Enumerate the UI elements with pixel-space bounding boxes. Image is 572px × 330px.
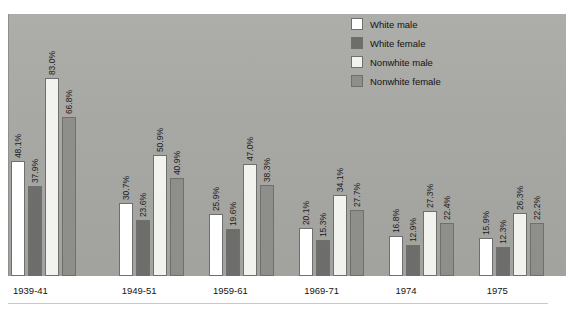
legend-item: White male (351, 18, 441, 30)
bar-value-label: 12.3% (496, 220, 510, 244)
bar: 50.9% (153, 155, 167, 276)
bar-value-label: 47.0% (243, 137, 257, 161)
bar: 27.3% (423, 211, 437, 276)
bar: 27.7% (350, 210, 364, 276)
bar-slot: 23.6% (134, 14, 151, 276)
bar-value-label: 15.3% (316, 213, 330, 237)
x-axis-tick-label: 1975 (475, 276, 566, 306)
bar: 20.1% (299, 228, 313, 276)
chart-legend: White maleWhite femaleNonwhite maleNonwh… (351, 18, 441, 87)
x-axis-tick-label: 1939-41 (9, 276, 110, 306)
legend-item: Nonwhite female (351, 75, 441, 87)
bar-groups: 48.1%37.9%83.0%66.8%30.7%23.6%50.9%40.9%… (9, 14, 566, 276)
x-axis-labels: 1939-411949-511959-611969-7119741975 (9, 276, 566, 306)
bar-slot: 12.3% (494, 14, 511, 276)
bar: 66.8% (62, 117, 76, 276)
bar: 48.1% (11, 161, 25, 276)
bar: 15.9% (479, 238, 493, 276)
bar: 19.6% (226, 229, 240, 276)
bar-slot: 25.9% (207, 14, 224, 276)
legend-swatch-nonwhite-male (351, 56, 363, 68)
bar-slot: 15.9% (477, 14, 494, 276)
legend-swatch-white-male (351, 18, 363, 30)
bar-slot: 19.6% (224, 14, 241, 276)
legend-label: Nonwhite male (370, 57, 433, 68)
bar-value-label: 16.8% (389, 209, 403, 233)
x-axis-tick-label: 1969-71 (292, 276, 383, 306)
bar: 15.3% (316, 240, 330, 276)
bar-slot: 48.1% (9, 14, 26, 276)
bar: 25.9% (209, 214, 223, 276)
bar-group: 48.1%37.9%83.0%66.8% (9, 14, 109, 276)
bar-slot: 22.2% (528, 14, 545, 276)
bar: 12.9% (406, 245, 420, 276)
bar: 34.1% (333, 195, 347, 276)
bar-slot: 50.9% (151, 14, 168, 276)
bar-slot: 20.1% (297, 14, 314, 276)
bar: 47.0% (243, 164, 257, 276)
bar-value-label: 22.4% (440, 196, 454, 220)
bar-slot: 83.0% (43, 14, 60, 276)
x-axis-tick-label: 1974 (383, 276, 474, 306)
bar-value-label: 27.3% (423, 184, 437, 208)
x-axis-tick-label: 1949-51 (110, 276, 201, 306)
bar-slot: 30.7% (117, 14, 134, 276)
bar-value-label: 37.9% (28, 159, 42, 183)
legend-label: White male (370, 19, 418, 30)
bar-value-label: 83.0% (45, 51, 59, 75)
bar-slot: 47.0% (241, 14, 258, 276)
bar-value-label: 26.3% (513, 186, 527, 210)
bar: 22.2% (530, 223, 544, 276)
bar: 12.3% (496, 247, 510, 276)
bar: 16.8% (389, 236, 403, 276)
bar-value-label: 20.1% (299, 201, 313, 225)
bar-slot: 40.9% (168, 14, 185, 276)
cropped-title-fragment (110, 0, 350, 3)
bar-group: 25.9%19.6%47.0%38.3% (199, 14, 289, 276)
bar-value-label: 27.7% (350, 183, 364, 207)
legend-item: Nonwhite male (351, 56, 441, 68)
bar-slot: 26.3% (511, 14, 528, 276)
bar-value-label: 34.1% (333, 168, 347, 192)
x-axis-tick-label: 1959-61 (201, 276, 292, 306)
bar: 23.6% (136, 220, 150, 276)
bar-group: 30.7%23.6%50.9%40.9% (109, 14, 199, 276)
bar: 37.9% (28, 186, 42, 276)
legend-label: Nonwhite female (370, 76, 441, 87)
baseline-rule (8, 303, 548, 304)
bar-value-label: 15.9% (479, 211, 493, 235)
bar-value-label: 12.9% (406, 218, 420, 242)
bar-slot: 38.3% (258, 14, 275, 276)
bar: 30.7% (119, 203, 133, 276)
bar-value-label: 50.9% (153, 128, 167, 152)
bar-slot: 66.8% (60, 14, 77, 276)
bar-value-label: 40.9% (170, 151, 184, 175)
bar-value-label: 19.6% (226, 202, 240, 226)
legend-swatch-white-female (351, 37, 363, 49)
bar: 40.9% (170, 178, 184, 276)
bar-value-label: 38.3% (260, 158, 274, 182)
bar-slot: 15.3% (314, 14, 331, 276)
bar-value-label: 30.7% (119, 176, 133, 200)
bar: 83.0% (45, 78, 59, 276)
bar-slot: 37.9% (26, 14, 43, 276)
bar-value-label: 22.2% (530, 196, 544, 220)
bar-group: 15.9%12.3%26.3%22.2% (469, 14, 559, 276)
legend-item: White female (351, 37, 441, 49)
legend-swatch-nonwhite-female (351, 75, 363, 87)
bar: 38.3% (260, 185, 274, 276)
bar: 26.3% (513, 213, 527, 276)
bar-value-label: 66.8% (62, 90, 76, 114)
bar-value-label: 48.1% (11, 134, 25, 158)
bar-chart-figure: 48.1%37.9%83.0%66.8%30.7%23.6%50.9%40.9%… (0, 0, 572, 330)
bar-value-label: 25.9% (209, 187, 223, 211)
legend-label: White female (370, 38, 425, 49)
bar: 22.4% (440, 223, 454, 276)
bar-value-label: 23.6% (136, 193, 150, 217)
bar-slot: 34.1% (331, 14, 348, 276)
